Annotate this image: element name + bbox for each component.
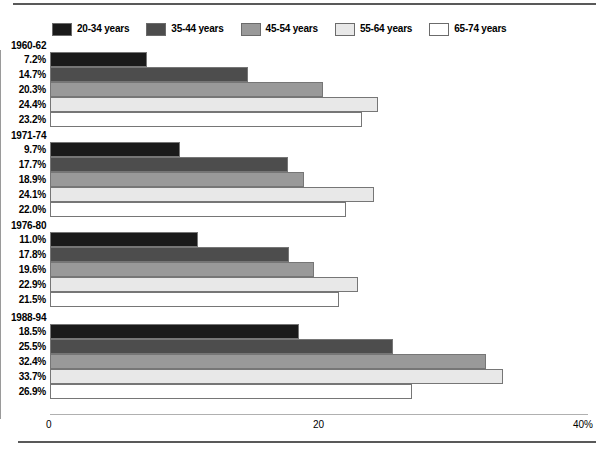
bar[interactable]	[50, 369, 503, 384]
bar[interactable]	[50, 292, 339, 307]
bar-value-label: 22.0%	[2, 205, 46, 215]
bar[interactable]	[50, 67, 248, 82]
bar[interactable]	[50, 232, 198, 247]
x-tick-mark-20	[0, 414, 1, 419]
x-tick-label-20: 20	[313, 419, 324, 430]
group-label: 1988-94	[11, 312, 46, 323]
bar-value-label: 7.2%	[2, 55, 46, 65]
group-label: 1960-62	[11, 40, 46, 51]
bar[interactable]	[50, 324, 299, 339]
bar-value-label: 11.0%	[2, 235, 46, 245]
bar[interactable]	[50, 339, 393, 354]
bar-chart-figure: 20-34 years35-44 years45-54 years55-64 y…	[0, 0, 609, 454]
bar[interactable]	[50, 157, 288, 172]
bar-value-label: 14.7%	[2, 70, 46, 80]
bar-value-label: 24.4%	[2, 100, 46, 110]
bar[interactable]	[50, 82, 323, 97]
group-label: 1976-80	[11, 220, 46, 231]
bar-value-label: 32.4%	[2, 357, 46, 367]
bar[interactable]	[50, 247, 289, 262]
bar-value-label: 24.1%	[2, 190, 46, 200]
bar[interactable]	[50, 384, 412, 399]
bar-value-label: 22.9%	[2, 280, 46, 290]
bar-value-label: 23.2%	[2, 115, 46, 125]
bar[interactable]	[50, 354, 486, 369]
bar[interactable]	[50, 187, 374, 202]
bar[interactable]	[50, 202, 346, 217]
bar[interactable]	[50, 172, 304, 187]
bar-value-label: 18.9%	[2, 175, 46, 185]
bar[interactable]	[50, 262, 314, 277]
bar-value-label: 26.9%	[2, 387, 46, 397]
bar-value-label: 17.8%	[2, 250, 46, 260]
bar-value-label: 9.7%	[2, 145, 46, 155]
bar-value-label: 21.5%	[2, 295, 46, 305]
bar-value-label: 25.5%	[2, 342, 46, 352]
bar-value-label: 33.7%	[2, 372, 46, 382]
bar[interactable]	[50, 97, 378, 112]
bar[interactable]	[50, 142, 180, 157]
bar[interactable]	[50, 52, 147, 67]
bar-value-label: 17.7%	[2, 160, 46, 170]
plot-area: 0 20 40% 1960-627.2%14.7%20.3%24.4%23.2%…	[0, 0, 609, 454]
gridline-20	[0, 50, 1, 414]
group-label: 1971-74	[11, 130, 46, 141]
x-tick-label-40: 40%	[573, 419, 593, 430]
bar-value-label: 20.3%	[2, 85, 46, 95]
x-tick-label-0: 0	[46, 419, 51, 430]
bar[interactable]	[50, 112, 362, 127]
x-axis-line	[50, 414, 588, 415]
bar[interactable]	[50, 277, 358, 292]
bar-value-label: 18.5%	[2, 327, 46, 337]
bar-value-label: 19.6%	[2, 265, 46, 275]
